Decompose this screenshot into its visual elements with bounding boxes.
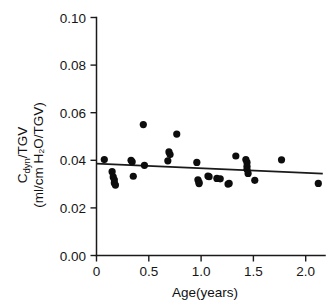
scatter-plot: 0.10 0.08 0.06 0.04 0.02 0.00 0 0.5 1.0 … bbox=[0, 0, 334, 307]
data-point bbox=[232, 152, 239, 159]
chart-figure: 0.10 0.08 0.06 0.04 0.02 0.00 0 0.5 1.0 … bbox=[0, 0, 334, 307]
data-point bbox=[205, 173, 212, 180]
x-axis: 0 0.5 1.0 1.5 2.0 bbox=[93, 256, 325, 280]
y-tick-label-5: 0.00 bbox=[60, 249, 86, 264]
data-points-layer bbox=[101, 121, 322, 189]
y-tick-label-3: 0.04 bbox=[60, 153, 87, 168]
data-point bbox=[112, 181, 119, 188]
data-point bbox=[129, 158, 136, 165]
y-axis: 0.10 0.08 0.06 0.04 0.02 0.00 bbox=[60, 11, 97, 264]
y-tick-label-4: 0.02 bbox=[60, 201, 86, 216]
data-point bbox=[101, 156, 108, 163]
y-tick-label-1: 0.08 bbox=[60, 58, 86, 73]
data-point bbox=[244, 170, 251, 177]
data-point bbox=[226, 180, 233, 187]
x-tick-label-3: 1.5 bbox=[244, 264, 263, 279]
data-point bbox=[193, 159, 200, 166]
y-axis-title-line1: Cdyn/TGV bbox=[15, 127, 32, 184]
y-axis-title-main: C bbox=[15, 173, 30, 183]
data-point bbox=[164, 157, 171, 164]
data-point bbox=[278, 156, 285, 163]
data-point bbox=[251, 177, 258, 184]
data-point bbox=[217, 175, 224, 182]
data-point bbox=[173, 131, 180, 138]
x-axis-title: Age(years) bbox=[172, 285, 238, 300]
x-tick-label-0: 0 bbox=[93, 264, 101, 279]
x-tick-label-1: 0.5 bbox=[139, 264, 158, 279]
y-axis-title-line2: (ml/cm H₂O/TGV) bbox=[31, 102, 46, 208]
y-tick-label-2: 0.06 bbox=[60, 106, 86, 121]
data-point bbox=[141, 162, 148, 169]
y-axis-title: Cdyn/TGV (ml/cm H₂O/TGV) bbox=[15, 102, 46, 208]
data-point bbox=[195, 180, 202, 187]
regression-line bbox=[97, 164, 323, 174]
y-axis-title-rest: /TGV bbox=[15, 127, 30, 159]
y-tick-label-0: 0.10 bbox=[60, 11, 86, 26]
x-tick-label-2: 1.0 bbox=[192, 264, 211, 279]
data-point bbox=[140, 121, 147, 128]
data-point bbox=[130, 173, 137, 180]
data-point bbox=[315, 180, 322, 187]
x-tick-label-4: 2.0 bbox=[296, 264, 315, 279]
data-point bbox=[166, 151, 173, 158]
